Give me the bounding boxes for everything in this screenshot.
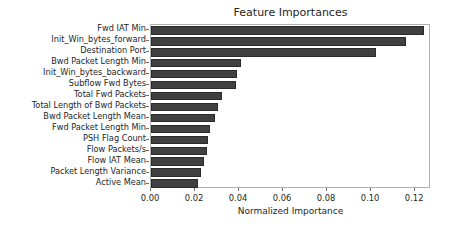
x-tick-mark <box>370 188 371 191</box>
y-tick-label: Packet Length Variance <box>50 167 146 176</box>
bar-row <box>151 47 429 58</box>
bar <box>151 114 215 122</box>
bar <box>151 26 424 34</box>
y-tick-mark <box>146 29 149 30</box>
y-tick-label: Fwd Packet Length Min <box>52 123 146 132</box>
x-tick-label: 0.00 <box>141 193 160 203</box>
plot-area <box>150 24 430 188</box>
x-tick-mark <box>194 188 195 191</box>
x-axis-label: Normalized Importance <box>150 206 431 216</box>
bar-row <box>151 36 429 47</box>
bar-row <box>151 69 429 80</box>
bar-row <box>151 102 429 113</box>
y-tick-mark <box>146 183 149 184</box>
x-tick-label: 0.10 <box>361 193 380 203</box>
bar <box>151 37 406 45</box>
y-tick-label: Active Mean <box>96 178 146 187</box>
y-tick-mark <box>146 106 149 107</box>
y-tick-mark <box>146 62 149 63</box>
bar <box>151 136 208 144</box>
x-tick-label: 0.12 <box>405 193 424 203</box>
y-tick-label: Flow IAT Mean <box>87 156 146 165</box>
bar-row <box>151 91 429 102</box>
bar <box>151 92 222 100</box>
y-axis-tick-labels: Fwd IAT MinInit_Win_bytes_forwardDestina… <box>0 24 146 188</box>
bar-row <box>151 156 429 167</box>
bar <box>151 48 376 56</box>
x-tick-mark <box>326 188 327 191</box>
bar <box>151 157 204 165</box>
x-tick-mark <box>150 188 151 191</box>
x-tick-label: 0.04 <box>229 193 248 203</box>
bar-row <box>151 25 429 36</box>
bar <box>151 147 207 155</box>
y-tick-label: Bwd Packet Length Min <box>51 57 146 66</box>
y-tick-mark <box>146 117 149 118</box>
bar <box>151 59 241 67</box>
y-tick-label: Total Length of Bwd Packets <box>32 101 146 110</box>
chart-title: Feature Importances <box>150 6 431 19</box>
bar <box>151 179 198 187</box>
y-tick-mark <box>146 73 149 74</box>
bar-row <box>151 134 429 145</box>
y-tick-mark <box>146 95 149 96</box>
y-tick-mark <box>146 128 149 129</box>
x-tick-label: 0.08 <box>317 193 336 203</box>
y-tick-label: Destination Port <box>80 46 146 55</box>
y-tick-label: Total Fwd Packets <box>74 90 146 99</box>
x-tick-label: 0.06 <box>273 193 292 203</box>
bar <box>151 125 210 133</box>
x-tick-mark <box>282 188 283 191</box>
x-tick-mark <box>238 188 239 191</box>
x-tick-mark <box>414 188 415 191</box>
y-tick-label: Bwd Packet Length Mean <box>43 112 146 121</box>
y-tick-label: Fwd IAT Min <box>97 24 146 33</box>
y-tick-mark <box>146 172 149 173</box>
y-tick-mark <box>146 51 149 52</box>
y-tick-mark <box>146 161 149 162</box>
bar-row <box>151 58 429 69</box>
feature-importances-chart: Feature Importances Fwd IAT MinInit_Win_… <box>0 0 449 230</box>
bar-row <box>151 123 429 134</box>
y-tick-mark <box>146 40 149 41</box>
y-tick-label: Flow Packets/s <box>87 145 146 154</box>
y-tick-mark <box>146 84 149 85</box>
bar-row <box>151 112 429 123</box>
x-tick-label: 0.02 <box>185 193 204 203</box>
bar-row <box>151 145 429 156</box>
y-tick-label: PSH Flag Count <box>83 134 146 143</box>
bar <box>151 168 201 176</box>
y-tick-label: Init_Win_bytes_forward <box>51 35 146 44</box>
bar <box>151 70 237 78</box>
y-tick-label: Init_Win_bytes_backward <box>43 68 146 77</box>
bar <box>151 103 218 111</box>
y-tick-label: Subflow Fwd Bytes <box>69 79 146 88</box>
y-tick-mark <box>146 139 149 140</box>
bar <box>151 81 236 89</box>
y-tick-mark <box>146 150 149 151</box>
bar-row <box>151 167 429 178</box>
bar-row <box>151 80 429 91</box>
bars-layer <box>151 25 429 187</box>
